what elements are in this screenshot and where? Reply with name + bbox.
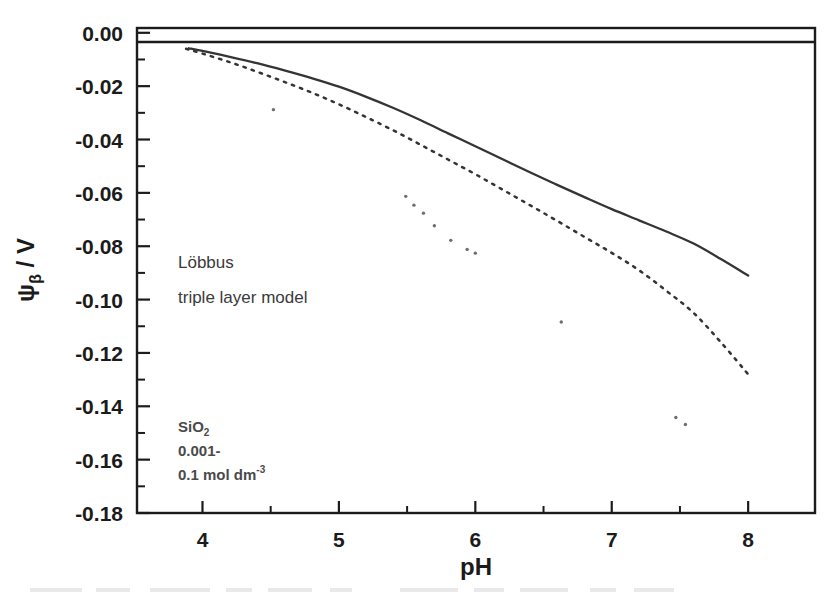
scatter-dot <box>474 251 477 254</box>
annotation-concentration-line2: 0.1 mol dm <box>178 466 256 483</box>
annotation-concentration-line1: 0.001- <box>178 442 221 459</box>
scatter-dot <box>412 203 415 206</box>
y-tick-label: -0.08 <box>75 235 123 258</box>
x-axis-ticks <box>202 501 748 513</box>
x-tick-label: 7 <box>606 528 618 551</box>
series-line-dashed <box>186 49 748 374</box>
scatter-dot <box>272 108 275 111</box>
y-tick-label: -0.06 <box>75 182 123 205</box>
x-tick-label: 8 <box>742 528 754 551</box>
x-tick-label: 6 <box>469 528 481 551</box>
y-axis-title-psi: ψ <box>12 284 39 302</box>
annotation-material-subscript: 2 <box>204 427 210 438</box>
y-tick-label: -0.16 <box>75 449 123 472</box>
scatter-dot <box>674 416 677 419</box>
chart-canvas: 45678 0.00-0.02-0.04-0.06-0.08-0.10-0.12… <box>0 0 838 596</box>
scatter-dot <box>449 239 452 242</box>
scatter-dot <box>465 248 468 251</box>
x-tick-label: 4 <box>197 528 209 551</box>
plot-frame <box>137 28 815 513</box>
scatter-dot <box>422 211 425 214</box>
scatter-dot <box>433 224 436 227</box>
x-axis-title: pH <box>460 553 492 580</box>
scatter-dot <box>560 320 563 323</box>
svg-text:SiO2: SiO2 <box>178 418 210 438</box>
annotation-material: SiO <box>178 418 204 435</box>
series-line-solid <box>189 48 748 275</box>
y-tick-label: -0.18 <box>75 502 123 525</box>
scatter-dot <box>684 423 687 426</box>
x-axis-tick-labels: 45678 <box>197 528 755 551</box>
y-tick-label: -0.10 <box>75 289 123 312</box>
y-tick-label: -0.14 <box>75 395 123 418</box>
y-tick-label: -0.04 <box>75 129 123 152</box>
scatter-dot <box>404 195 407 198</box>
svg-text:0.1 mol dm-3: 0.1 mol dm-3 <box>178 464 266 483</box>
annotation-model: triple layer model <box>178 288 307 307</box>
y-axis-title-beta: β <box>27 274 44 284</box>
x-tick-label: 5 <box>333 528 345 551</box>
annotation-material-group: SiO2 0.001- 0.1 mol dm-3 <box>178 418 266 483</box>
chart-figure: 45678 0.00-0.02-0.04-0.06-0.08-0.10-0.12… <box>0 0 838 596</box>
y-tick-label: -0.12 <box>75 342 123 365</box>
y-axis-tick-labels: 0.00-0.02-0.04-0.06-0.08-0.10-0.12-0.14-… <box>75 22 123 525</box>
svg-text:ψβ / V: ψβ / V <box>12 238 44 302</box>
y-axis-title-group: ψβ / V <box>12 238 44 302</box>
page-scan-smudge <box>30 588 674 592</box>
scatter-points <box>272 108 687 426</box>
y-tick-label: -0.02 <box>75 75 123 98</box>
annotation-concentration-exponent: -3 <box>256 464 265 475</box>
annotation-author: Löbbus <box>178 253 234 272</box>
y-axis-title-unit: / V <box>12 238 39 274</box>
y-tick-label: 0.00 <box>82 22 123 45</box>
y-axis-ticks <box>137 33 150 513</box>
